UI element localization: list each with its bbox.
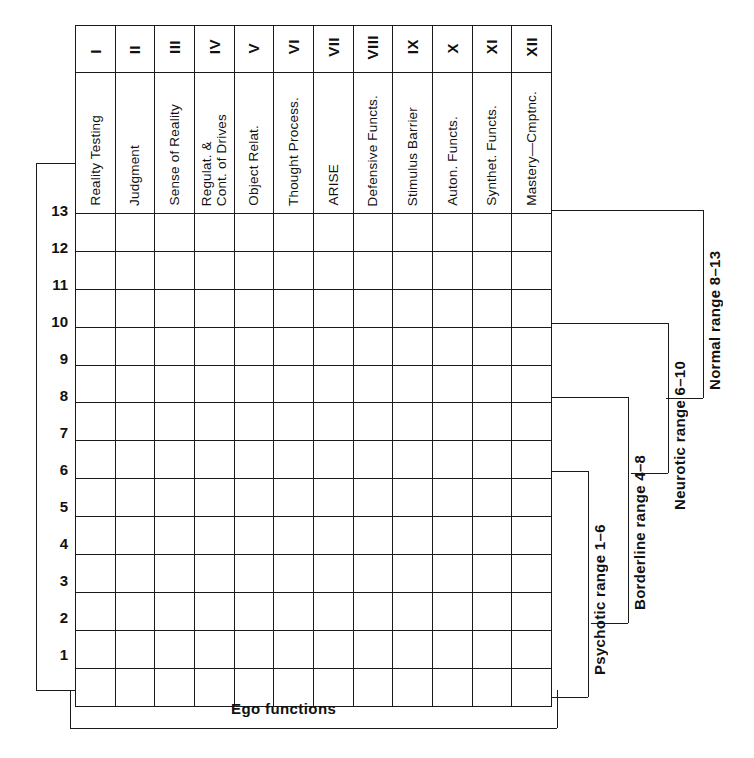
grid-cell[interactable] <box>353 327 393 365</box>
grid-cell[interactable] <box>194 555 234 593</box>
grid-cell[interactable] <box>472 289 512 327</box>
grid-cell[interactable] <box>115 214 155 252</box>
table-row[interactable] <box>76 441 552 479</box>
grid-cell[interactable] <box>274 479 314 517</box>
grid-cell[interactable] <box>313 517 353 555</box>
grid-cell[interactable] <box>155 479 195 517</box>
table-row[interactable] <box>76 555 552 593</box>
grid-cell[interactable] <box>115 403 155 441</box>
grid-cell[interactable] <box>353 365 393 403</box>
grid-cell[interactable] <box>512 479 552 517</box>
grid-cell[interactable] <box>194 327 234 365</box>
grid-cell[interactable] <box>234 289 274 327</box>
grid-cell[interactable] <box>76 517 116 555</box>
grid-cell[interactable] <box>472 555 512 593</box>
table-row[interactable] <box>76 251 552 289</box>
grid-cell[interactable] <box>194 289 234 327</box>
grid-cell[interactable] <box>512 630 552 668</box>
grid-cell[interactable] <box>234 403 274 441</box>
grid-cell[interactable] <box>76 630 116 668</box>
grid-cell[interactable] <box>393 592 433 630</box>
grid-cell[interactable] <box>353 289 393 327</box>
table-row[interactable] <box>76 592 552 630</box>
grid-cell[interactable] <box>234 555 274 593</box>
grid-cell[interactable] <box>472 365 512 403</box>
grid-cell[interactable] <box>472 668 512 706</box>
grid-cell[interactable] <box>155 289 195 327</box>
grid-cell[interactable] <box>432 214 472 252</box>
table-row[interactable] <box>76 403 552 441</box>
grid-cell[interactable] <box>313 441 353 479</box>
grid-cell[interactable] <box>432 479 472 517</box>
grid-cell[interactable] <box>393 668 433 706</box>
grid-cell[interactable] <box>234 327 274 365</box>
grid-cell[interactable] <box>512 251 552 289</box>
grid-cell[interactable] <box>432 441 472 479</box>
grid-cell[interactable] <box>155 668 195 706</box>
grid-cell[interactable] <box>313 592 353 630</box>
grid-cell[interactable] <box>393 214 433 252</box>
grid-cell[interactable] <box>472 251 512 289</box>
grid-cell[interactable] <box>115 668 155 706</box>
grid-cell[interactable] <box>76 365 116 403</box>
table-row[interactable] <box>76 479 552 517</box>
grid-cell[interactable] <box>393 517 433 555</box>
table-row[interactable] <box>76 365 552 403</box>
grid-cell[interactable] <box>472 630 512 668</box>
grid-cell[interactable] <box>76 668 116 706</box>
grid-cell[interactable] <box>313 289 353 327</box>
grid-cell[interactable] <box>76 441 116 479</box>
grid-cell[interactable] <box>234 251 274 289</box>
grid-cell[interactable] <box>194 403 234 441</box>
grid-cell[interactable] <box>234 630 274 668</box>
grid-cell[interactable] <box>115 630 155 668</box>
grid-cell[interactable] <box>76 289 116 327</box>
grid-cell[interactable] <box>313 479 353 517</box>
grid-cell[interactable] <box>353 441 393 479</box>
grid-cell[interactable] <box>234 479 274 517</box>
grid-cell[interactable] <box>194 630 234 668</box>
grid-cell[interactable] <box>115 327 155 365</box>
grid-cell[interactable] <box>313 555 353 593</box>
grid-cell[interactable] <box>353 517 393 555</box>
grid-cell[interactable] <box>353 592 393 630</box>
grid-cell[interactable] <box>234 214 274 252</box>
grid-cell[interactable] <box>393 630 433 668</box>
grid-cell[interactable] <box>512 365 552 403</box>
grid-cell[interactable] <box>393 289 433 327</box>
grid-cell[interactable] <box>155 441 195 479</box>
grid-cell[interactable] <box>512 441 552 479</box>
grid-cell[interactable] <box>155 214 195 252</box>
grid-cell[interactable] <box>115 365 155 403</box>
grid-cell[interactable] <box>512 517 552 555</box>
grid-cell[interactable] <box>76 592 116 630</box>
grid-cell[interactable] <box>155 630 195 668</box>
grid-cell[interactable] <box>76 403 116 441</box>
grid-cell[interactable] <box>115 517 155 555</box>
grid-cell[interactable] <box>76 479 116 517</box>
grid-cell[interactable] <box>155 403 195 441</box>
table-row[interactable] <box>76 289 552 327</box>
grid-cell[interactable] <box>274 365 314 403</box>
grid-cell[interactable] <box>76 214 116 252</box>
grid-cell[interactable] <box>432 365 472 403</box>
grid-cell[interactable] <box>274 441 314 479</box>
grid-cell[interactable] <box>313 403 353 441</box>
grid-cell[interactable] <box>432 251 472 289</box>
grid-cell[interactable] <box>115 592 155 630</box>
grid-cell[interactable] <box>432 517 472 555</box>
grid-cell[interactable] <box>274 592 314 630</box>
grid-cell[interactable] <box>313 214 353 252</box>
grid-cell[interactable] <box>353 403 393 441</box>
grid-cell[interactable] <box>512 668 552 706</box>
grid-cell[interactable] <box>353 630 393 668</box>
grid-cell[interactable] <box>155 555 195 593</box>
grid-cell[interactable] <box>155 592 195 630</box>
grid-cell[interactable] <box>194 592 234 630</box>
grid-cell[interactable] <box>115 289 155 327</box>
grid-cell[interactable] <box>313 251 353 289</box>
grid-cell[interactable] <box>512 289 552 327</box>
grid-cell[interactable] <box>313 327 353 365</box>
grid-cell[interactable] <box>274 555 314 593</box>
grid-cell[interactable] <box>155 365 195 403</box>
